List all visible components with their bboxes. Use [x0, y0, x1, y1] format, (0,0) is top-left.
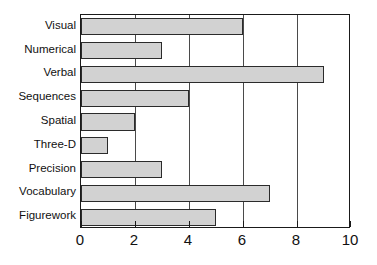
bar-row — [81, 113, 351, 130]
bar-row — [81, 161, 351, 178]
y-axis-label-vocabulary: Vocabulary — [0, 186, 76, 198]
x-axis-tick-label-6: 6 — [238, 232, 246, 247]
plot-area — [80, 14, 350, 228]
bar-verbal — [81, 66, 324, 83]
bar-row — [81, 66, 351, 83]
bar-visual — [81, 18, 243, 35]
y-axis-label-spatial: Spatial — [0, 115, 76, 127]
bar-three-d — [81, 137, 108, 154]
bar-chart: VisualNumericalVerbalSequencesSpatialThr… — [0, 0, 377, 265]
x-tick-4 — [189, 221, 190, 227]
bar-row — [81, 209, 351, 226]
x-axis-tick-label-0: 0 — [76, 232, 84, 247]
x-axis-tick-label-10: 10 — [342, 232, 359, 247]
bar-precision — [81, 161, 162, 178]
x-tick-0 — [81, 221, 82, 227]
bar-numerical — [81, 42, 162, 59]
bar-row — [81, 137, 351, 154]
y-axis-label-numerical: Numerical — [0, 44, 76, 56]
x-axis-tick-label-4: 4 — [184, 232, 192, 247]
bar-row — [81, 185, 351, 202]
bar-row — [81, 42, 351, 59]
x-tick-8 — [297, 221, 298, 227]
y-axis-label-sequences: Sequences — [0, 91, 76, 103]
bar-figurework — [81, 209, 216, 226]
x-axis-tick-label-8: 8 — [292, 232, 300, 247]
bar-row — [81, 90, 351, 107]
x-tick-10 — [350, 221, 351, 227]
bars-group — [81, 15, 349, 227]
bar-row — [81, 18, 351, 35]
y-axis-label-three-d: Three-D — [0, 139, 76, 151]
y-axis-label-visual: Visual — [0, 20, 76, 32]
y-axis-label-precision: Precision — [0, 163, 76, 175]
bar-sequences — [81, 90, 189, 107]
x-tick-6 — [243, 221, 244, 227]
x-axis-tick-label-2: 2 — [130, 232, 138, 247]
y-axis-label-verbal: Verbal — [0, 67, 76, 79]
x-axis-tick-labels: 0246810 — [80, 232, 350, 256]
bar-spatial — [81, 113, 135, 130]
x-tick-2 — [135, 221, 136, 227]
y-axis-label-figurework: Figurework — [0, 210, 76, 222]
y-axis-labels: VisualNumericalVerbalSequencesSpatialThr… — [0, 14, 76, 228]
bar-vocabulary — [81, 185, 270, 202]
